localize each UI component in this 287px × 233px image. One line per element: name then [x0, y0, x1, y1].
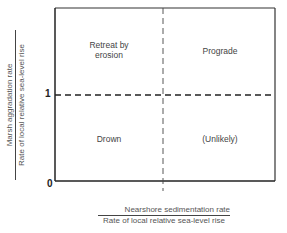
y-tick-0: 0: [47, 178, 53, 189]
y-axis-denominator: Rate of local relative sea-level rise: [16, 30, 27, 180]
quadrant-top-left-line2: erosion: [95, 50, 123, 60]
quadrant-diagram: [0, 0, 287, 233]
x-axis-label: Nearshore sedimentation rate Rate of loc…: [98, 205, 230, 226]
y-axis-label: Marsh aggradation rate Rate of local rel…: [4, 30, 34, 180]
quadrant-retreat-by-erosion: Retreat by erosion: [74, 40, 144, 60]
x-axis-denominator: Rate of local relative sea-level rise: [98, 216, 230, 226]
quadrant-top-left-line1: Retreat by: [89, 40, 128, 50]
quadrant-unlikely: (Unlikely): [180, 134, 260, 144]
quadrant-prograde: Prograde: [180, 46, 260, 56]
y-tick-1: 1: [45, 88, 51, 99]
x-axis-numerator: Nearshore sedimentation rate: [98, 205, 230, 216]
y-axis-numerator: Marsh aggradation rate: [4, 30, 16, 180]
quadrant-drown: Drown: [74, 134, 144, 144]
